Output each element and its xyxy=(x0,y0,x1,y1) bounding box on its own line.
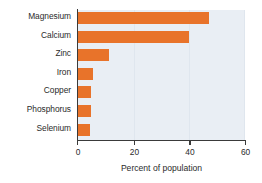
gridline-20 xyxy=(134,10,135,140)
bar-phosphorus xyxy=(78,105,91,117)
category-axis-labels: Magnesium Calcium Zinc Iron Copper Phosp… xyxy=(0,10,74,140)
gridline-40 xyxy=(189,10,190,140)
x-tick-0 xyxy=(77,141,78,145)
plot-area xyxy=(78,10,245,140)
x-tick-label-40: 40 xyxy=(178,147,202,157)
y-axis-line xyxy=(77,9,78,141)
category-label: Copper xyxy=(0,85,71,95)
category-label: Selenium xyxy=(0,123,71,133)
bar-chart: Magnesium Calcium Zinc Iron Copper Phosp… xyxy=(0,0,262,183)
x-tick-label-0: 0 xyxy=(66,147,90,157)
x-axis-line xyxy=(77,140,246,141)
category-label: Iron xyxy=(0,67,71,77)
x-tick-20 xyxy=(134,141,135,145)
bar-calcium xyxy=(78,31,189,43)
bar-iron xyxy=(78,68,93,80)
x-tick-label-60: 60 xyxy=(234,147,258,157)
x-axis-title: Percent of population xyxy=(78,163,245,173)
bar-zinc xyxy=(78,49,109,61)
x-tick-label-20: 20 xyxy=(122,147,146,157)
bar-magnesium xyxy=(78,12,209,24)
x-tick-60 xyxy=(245,141,246,145)
x-tick-40 xyxy=(189,141,190,145)
bar-selenium xyxy=(78,124,90,136)
gridline-60 xyxy=(244,10,245,140)
bar-copper xyxy=(78,86,91,98)
category-label: Phosphorus xyxy=(0,104,71,114)
category-label: Magnesium xyxy=(0,11,71,21)
category-label: Zinc xyxy=(0,48,71,58)
category-label: Calcium xyxy=(0,30,71,40)
